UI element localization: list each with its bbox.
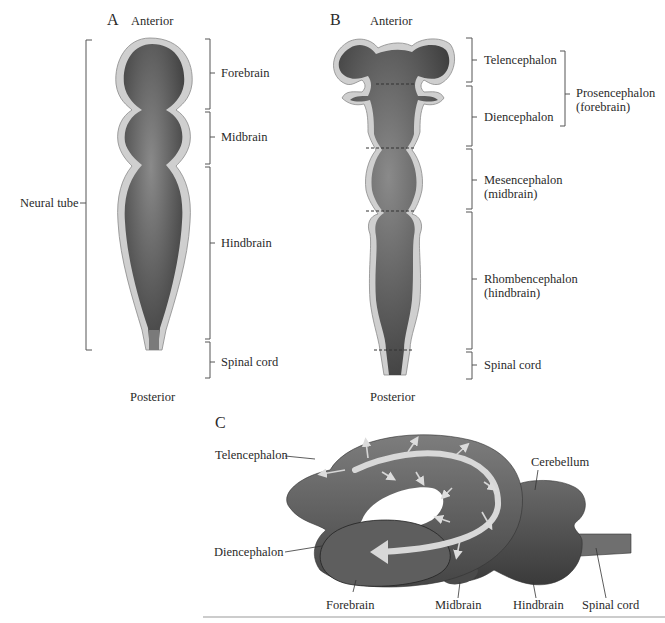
c-label-telencephalon: Telencephalon xyxy=(215,448,288,462)
spinal-cord-shape xyxy=(576,534,631,556)
c-label-diencephalon: Diencephalon xyxy=(214,545,284,559)
panel-b: B Anterior Telencephalon Diencephalon Pr… xyxy=(330,11,656,404)
c-label-midbrain: Midbrain xyxy=(435,598,482,612)
panel-a-letter: A xyxy=(107,11,119,28)
region-label-telencephalon: Telencephalon xyxy=(484,53,557,67)
panel-c: C xyxy=(203,414,665,617)
spinal-cord-bracket-b xyxy=(466,352,472,379)
region-label-mesencephalon: Mesencephalon xyxy=(484,173,563,187)
neural-tube-label: Neural tube xyxy=(20,196,79,210)
region-label-rhombencephalon: Rhombencephalon xyxy=(484,272,578,286)
c-label-forebrain: Forebrain xyxy=(326,598,375,612)
panel-c-letter: C xyxy=(215,414,226,431)
rhombencephalon-bracket xyxy=(466,212,472,349)
panel-b-letter: B xyxy=(330,11,341,28)
region-label-forebrain: Forebrain xyxy=(221,66,270,80)
panel-a-posterior-label: Posterior xyxy=(130,390,176,404)
neural-tube-cavity xyxy=(124,44,185,350)
region-label-hindbrain: Hindbrain xyxy=(221,236,272,250)
neural-tube-b xyxy=(334,39,455,375)
leader-telencephalon xyxy=(285,456,315,459)
prosencephalon-bracket xyxy=(560,51,565,126)
panel-a-anterior-label: Anterior xyxy=(131,14,174,28)
telencephalon-bracket xyxy=(466,38,472,82)
hindbrain-bracket xyxy=(205,167,210,339)
region-label-spinal-cord-b: Spinal cord xyxy=(484,358,542,372)
neural-tube-bracket xyxy=(86,40,92,350)
region-label-midbrain-b: (midbrain) xyxy=(484,187,537,201)
c-label-cerebellum: Cerebellum xyxy=(531,455,590,469)
neural-tube-a xyxy=(116,38,192,350)
diencephalon-bracket xyxy=(466,86,472,146)
c-label-hindbrain: Hindbrain xyxy=(513,598,564,612)
panel-a: A Anterior Neural tube Forebrain Midbrai… xyxy=(20,11,279,404)
region-label-diencephalon: Diencephalon xyxy=(484,110,554,124)
panel-b-anterior-label: Anterior xyxy=(370,14,413,28)
midbrain-bracket xyxy=(205,112,210,164)
group-label-forebrain: (forebrain) xyxy=(576,100,630,114)
group-label-prosencephalon: Prosencephalon xyxy=(576,86,656,100)
forebrain-bracket xyxy=(205,39,210,109)
region-label-midbrain: Midbrain xyxy=(221,130,268,144)
spinal-cord-bracket xyxy=(205,342,210,378)
c-label-spinal-cord: Spinal cord xyxy=(582,598,640,612)
spinal-cord-segment xyxy=(149,330,159,350)
region-label-hindbrain-b: (hindbrain) xyxy=(484,286,540,300)
panel-b-posterior-label: Posterior xyxy=(370,390,416,404)
neural-development-diagram: A Anterior Neural tube Forebrain Midbrai… xyxy=(0,0,665,623)
leader-midbrain xyxy=(458,582,460,598)
leader-spinal-cord xyxy=(596,548,606,598)
mesencephalon-bracket xyxy=(466,149,472,209)
region-label-spinal-cord: Spinal cord xyxy=(221,355,279,369)
